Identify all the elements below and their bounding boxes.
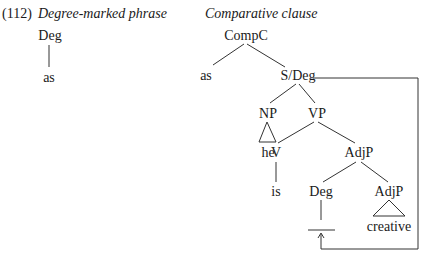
node-as-comp: as	[200, 68, 212, 83]
edge-vp-adjp	[318, 122, 355, 143]
left-tree: Deg as	[38, 28, 61, 85]
left-caption: Degree-marked phrase	[37, 6, 167, 21]
node-np: NP	[259, 106, 277, 121]
node-vp: VP	[308, 106, 326, 121]
node-compc: CompC	[224, 28, 268, 43]
edge-compc-as	[213, 44, 244, 65]
edge-sdeg-vp	[299, 84, 315, 103]
edge-adjp-adjp	[361, 162, 388, 182]
node-deg-left: Deg	[38, 28, 61, 43]
example-number: (112)	[2, 6, 32, 22]
node-deg-right: Deg	[309, 184, 332, 199]
edge-sdeg-np	[270, 84, 296, 103]
leaf-as-left: as	[43, 70, 55, 85]
node-v: V	[271, 145, 281, 160]
triangle-adjp	[373, 200, 405, 216]
edge-vp-v	[278, 122, 314, 143]
edge-compc-sdeg	[247, 44, 285, 67]
node-s-deg: S/Deg	[281, 68, 316, 83]
right-caption: Comparative clause	[205, 6, 317, 21]
node-adjp: AdjP	[345, 145, 374, 160]
right-tree: CompC as S/Deg NP he VP V is AdjP Deg Ad…	[200, 28, 418, 249]
syntax-tree-diagram: (112) Degree-marked phrase Comparative c…	[0, 0, 436, 259]
node-adjp-inner: AdjP	[375, 184, 404, 199]
triangle-np	[259, 122, 276, 142]
edge-adjp-deg	[323, 162, 356, 182]
leaf-creative: creative	[367, 219, 411, 234]
leaf-is: is	[271, 184, 280, 199]
